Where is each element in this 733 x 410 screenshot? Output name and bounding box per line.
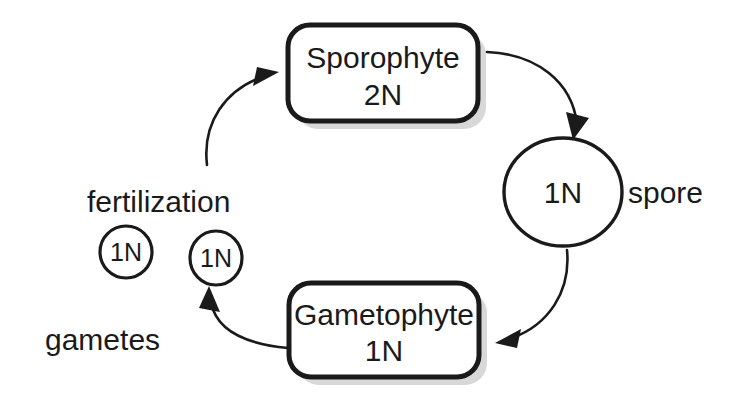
arrow-gametophyte-to-gamete xyxy=(211,302,288,348)
arrow-sporophyte-to-spore xyxy=(487,52,577,124)
gamete-left-ploidy-label: 1N xyxy=(110,238,142,266)
sporophyte-ploidy-label: 2N xyxy=(364,78,402,111)
arrow-sporophyte-to-spore-head xyxy=(566,112,589,140)
arrow-gametophyte-to-gamete-head xyxy=(199,286,220,312)
sporophyte-label: Sporophyte xyxy=(306,41,459,74)
gametes-label: gametes xyxy=(45,323,160,356)
gametophyte-ploidy-label: 1N xyxy=(365,334,403,367)
life-cycle-diagram-canvas: Sporophyte 2N Gametophyte 1N 1N spore 1N… xyxy=(0,0,733,410)
spore-text-label: spore xyxy=(628,176,703,209)
gamete-right-ploidy-label: 1N xyxy=(200,244,232,272)
arrow-fertilization-to-sporophyte xyxy=(206,77,262,165)
arrow-fertilization-to-sporophyte-head xyxy=(253,67,279,86)
spore-ploidy-label: 1N xyxy=(544,176,582,209)
arrow-spore-to-gametophyte-head xyxy=(495,329,521,348)
fertilization-label: fertilization xyxy=(87,185,230,218)
gametophyte-label: Gametophyte xyxy=(294,298,474,331)
alternation-of-generations-diagram: Sporophyte 2N Gametophyte 1N 1N spore 1N… xyxy=(0,0,733,410)
arrow-spore-to-gametophyte xyxy=(512,250,567,338)
